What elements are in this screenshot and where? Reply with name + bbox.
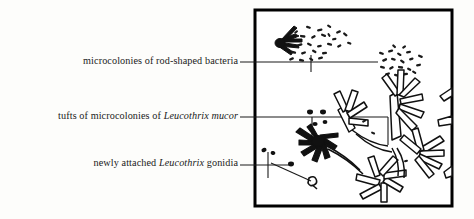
figure-canvas: microcolonies of rod-shaped bacteria tuf…	[0, 0, 474, 219]
illustration-artwork	[0, 0, 474, 219]
